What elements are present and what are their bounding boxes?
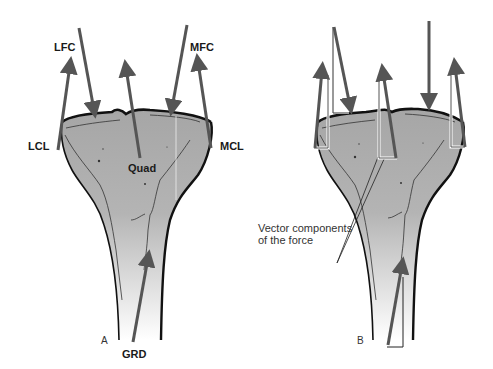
label-quad: Quad [128,162,156,174]
label-mfc: MFC [190,41,214,53]
figure-canvas: LFC MFC LCL MCL Quad GRD A [0,0,493,369]
mfc-force-arrow [172,25,187,108]
panel-label-a: A [101,335,108,346]
annotation-vector-components-line2: of the force [258,234,313,246]
label-lcl: LCL [28,140,50,152]
lfc-force-arrow [79,28,94,110]
panel-a: LFC MFC LCL MCL Quad GRD A [28,25,244,360]
label-mcl: MCL [220,140,244,152]
annotation-vector-components-line1: Vector components [258,222,353,234]
label-lfc: LFC [54,41,75,53]
panel-label-b: B [357,335,364,346]
label-grd: GRD [122,348,147,360]
panel-b: Vector components of the force B [258,21,465,347]
lfc-force-arrow-b [334,27,350,106]
